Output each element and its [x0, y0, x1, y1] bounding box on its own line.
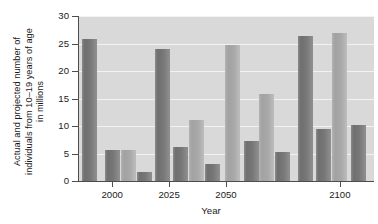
- y-tick: 5: [72, 154, 78, 155]
- y-tick: 0: [72, 181, 78, 182]
- bar-8: [205, 164, 220, 181]
- bar-13: [298, 36, 313, 181]
- y-axis-title-text: Actual and projected number of individua…: [12, 28, 46, 175]
- bar-12: [275, 152, 290, 181]
- x-tick: [169, 182, 170, 187]
- bar-6: [173, 147, 188, 181]
- bar-7: [189, 120, 204, 181]
- x-tick-label: 2000: [101, 189, 122, 200]
- x-tick-label: 2025: [158, 189, 179, 200]
- y-axis-line: [78, 16, 79, 182]
- y-tick-label: 20: [58, 65, 69, 76]
- y-tick: 10: [72, 126, 78, 127]
- plot-inner: [78, 16, 374, 181]
- gridline: [78, 16, 374, 17]
- x-tick-label: 2100: [329, 189, 350, 200]
- bar-16: [351, 125, 366, 181]
- x-tick: [112, 182, 113, 187]
- bar-11: [259, 94, 274, 181]
- bar-3: [121, 150, 136, 181]
- y-tick-label: 30: [58, 10, 69, 21]
- x-axis-title-text: Year: [157, 205, 220, 216]
- bar-9: [225, 45, 240, 181]
- y-tick-label: 25: [58, 38, 69, 49]
- bar-1: [82, 39, 97, 181]
- y-tick: 20: [72, 71, 78, 72]
- x-tick: [226, 182, 227, 187]
- bar-5: [155, 49, 170, 181]
- bar-10: [244, 141, 259, 181]
- y-tick-label: 15: [58, 93, 69, 104]
- y-tick-label: 0: [64, 175, 69, 186]
- x-axis-title: Year: [0, 205, 378, 216]
- bar-2: [105, 150, 120, 181]
- bar-4: [137, 172, 152, 181]
- bar-14: [316, 129, 331, 181]
- x-tick-label: 2050: [215, 189, 236, 200]
- y-tick-label: 10: [58, 120, 69, 131]
- bar-15: [332, 33, 347, 182]
- plot-area: [78, 16, 374, 181]
- y-tick: 15: [72, 99, 78, 100]
- y-tick-label: 5: [64, 148, 69, 159]
- y-axis-title: Actual and projected number of individua…: [7, 7, 52, 197]
- y-tick: 30: [72, 16, 78, 17]
- x-tick: [340, 182, 341, 187]
- bar-chart-figure: Actual and projected number of individua…: [0, 0, 378, 224]
- y-tick: 25: [72, 44, 78, 45]
